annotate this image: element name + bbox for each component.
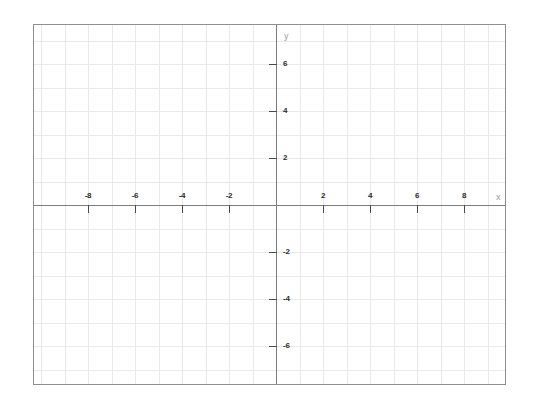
plot-frame: -8-6-4-224688642-2-4-6-8 yx xyxy=(33,24,506,385)
coordinate-plane-figure: -8-6-4-224688642-2-4-6-8 yx xyxy=(0,0,540,414)
x-axis-name-label: x xyxy=(496,193,501,202)
axis-name-layer: yx xyxy=(34,25,505,384)
y-axis-name-label: y xyxy=(284,32,289,41)
